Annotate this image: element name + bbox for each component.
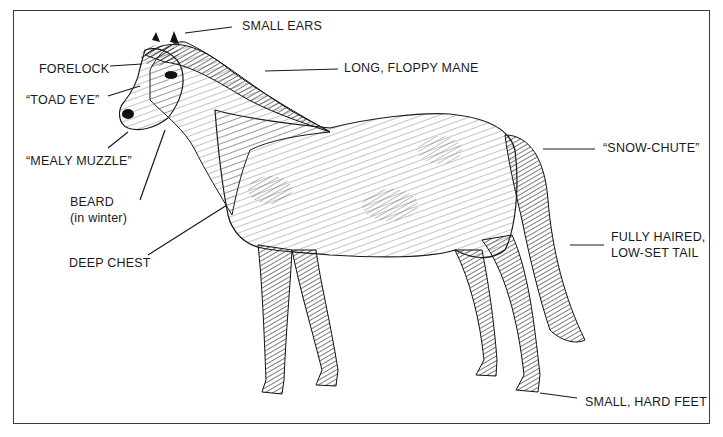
label-long-floppy-mane: LONG, FLOPPY MANE [344,61,478,76]
leader-beard [140,130,165,200]
label-deep-chest: DEEP CHEST [69,256,151,271]
label-toad-eye: “TOAD EYE” [26,93,99,108]
label-small-hard-feet: SMALL, HARD FEET [585,395,707,410]
label-tail-line2: LOW-SET TAIL [611,246,699,261]
label-tail-line1: FULLY HAIRED, [611,230,706,245]
label-beard: BEARD [70,195,114,210]
pony-legs [258,235,540,394]
leader-small-ears [185,27,232,33]
label-small-ears: SMALL EARS [242,19,322,34]
label-snow-chute: “SNOW-CHUTE” [603,141,700,156]
label-beard-note: (in winter) [70,211,127,226]
leader-deep-chest [148,205,227,255]
label-mealy-muzzle: “MEALY MUZZLE” [26,154,132,169]
leader-forelock [110,64,142,66]
leader-feet [540,393,577,398]
leader-mealy-muzzle [108,132,128,148]
label-forelock: FORELOCK [39,62,109,77]
leader-mane [265,69,338,71]
